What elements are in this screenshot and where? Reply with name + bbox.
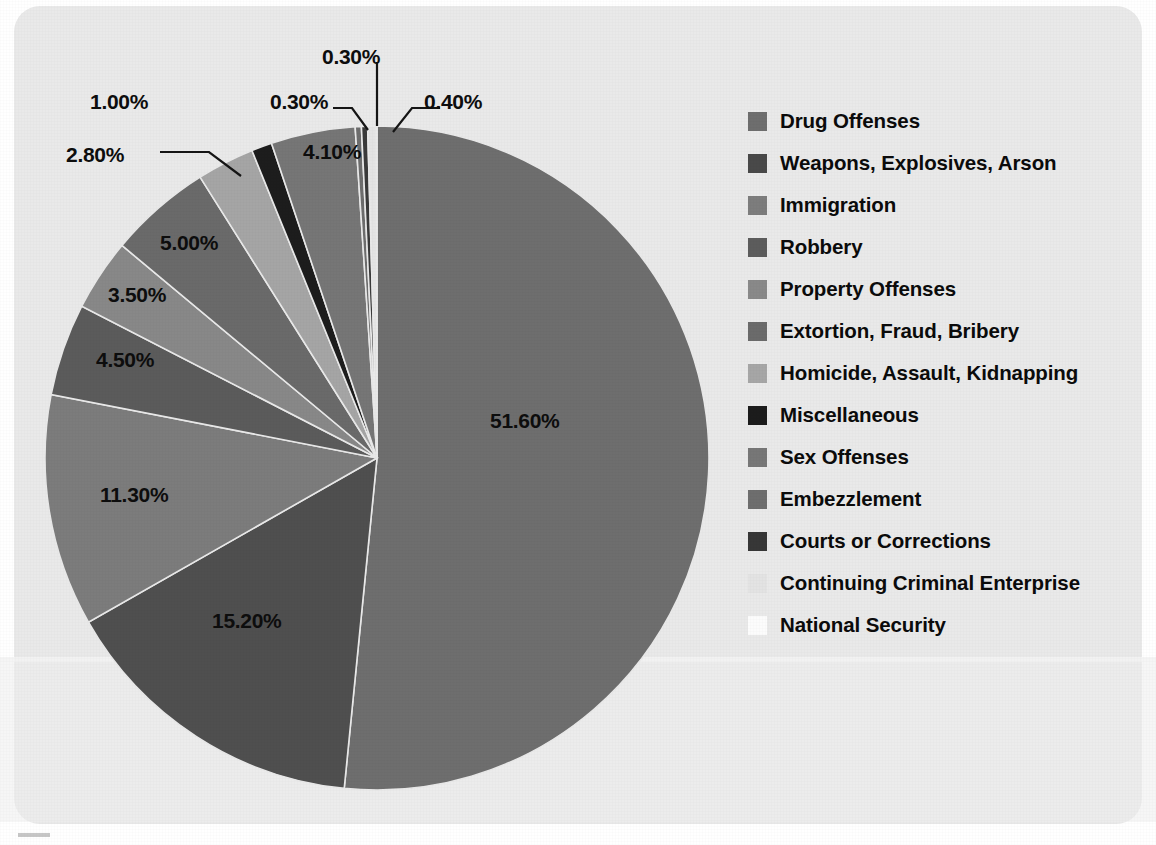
pie-data-label: 1.00%: [90, 90, 148, 114]
pie-data-label: 11.30%: [100, 483, 168, 507]
legend-item-label: Immigration: [780, 193, 896, 217]
legend-swatch-icon: [748, 154, 767, 173]
legend-item-label: Homicide, Assault, Kidnapping: [780, 361, 1078, 385]
legend-swatch-icon: [748, 322, 767, 341]
legend-swatch-icon: [748, 448, 767, 467]
legend-item-label: Extortion, Fraud, Bribery: [780, 319, 1019, 343]
legend-item-label: Robbery: [780, 235, 862, 259]
pie-data-label: 4.10%: [303, 140, 361, 164]
legend-item[interactable]: Property Offenses: [748, 268, 1144, 310]
legend-item[interactable]: Continuing Criminal Enterprise: [748, 562, 1144, 604]
legend-swatch-icon: [748, 196, 767, 215]
legend-item[interactable]: Weapons, Explosives, Arson: [748, 142, 1144, 184]
legend-item-label: Drug Offenses: [780, 109, 920, 133]
pie-data-label: 51.60%: [490, 409, 559, 433]
pie-data-label: 0.30%: [270, 90, 328, 114]
legend-item-label: Property Offenses: [780, 277, 956, 301]
legend-item[interactable]: Extortion, Fraud, Bribery: [748, 310, 1144, 352]
legend-swatch-icon: [748, 238, 767, 257]
pie-slice[interactable]: [376, 126, 377, 458]
legend-swatch-icon: [748, 616, 767, 635]
chart-legend: Drug OffensesWeapons, Explosives, ArsonI…: [748, 100, 1144, 646]
pie-data-label: 3.50%: [108, 283, 166, 307]
legend-item-label: Embezzlement: [780, 487, 921, 511]
legend-item[interactable]: Embezzlement: [748, 478, 1144, 520]
legend-item-label: Miscellaneous: [780, 403, 919, 427]
pie-slice[interactable]: [344, 126, 709, 790]
legend-swatch-icon: [748, 490, 767, 509]
legend-swatch-icon: [748, 364, 767, 383]
legend-item[interactable]: Drug Offenses: [748, 100, 1144, 142]
legend-item-label: Continuing Criminal Enterprise: [780, 571, 1080, 595]
legend-item[interactable]: Immigration: [748, 184, 1144, 226]
pie-data-label: 2.80%: [66, 143, 124, 167]
legend-item-label: Courts or Corrections: [780, 529, 991, 553]
legend-item[interactable]: National Security: [748, 604, 1144, 646]
pie-data-label: 0.40%: [424, 90, 482, 114]
legend-swatch-icon: [748, 532, 767, 551]
chart-page: 0.30%1.00%0.30%0.40%2.80%4.10%5.00%3.50%…: [0, 0, 1156, 845]
legend-swatch-icon: [748, 406, 767, 425]
legend-item[interactable]: Courts or Corrections: [748, 520, 1144, 562]
legend-item[interactable]: Homicide, Assault, Kidnapping: [748, 352, 1144, 394]
legend-item[interactable]: Sex Offenses: [748, 436, 1144, 478]
pie-data-label: 0.30%: [322, 45, 380, 69]
pie-data-label: 4.50%: [96, 348, 154, 372]
pie-slice-group: [45, 126, 709, 790]
pie-data-label: 15.20%: [212, 609, 281, 633]
legend-item[interactable]: Robbery: [748, 226, 1144, 268]
legend-swatch-icon: [748, 280, 767, 299]
legend-swatch-icon: [748, 574, 767, 593]
legend-swatch-icon: [748, 112, 767, 131]
legend-item[interactable]: Miscellaneous: [748, 394, 1144, 436]
legend-item-label: Sex Offenses: [780, 445, 909, 469]
legend-item-label: National Security: [780, 613, 946, 637]
pie-data-label: 5.00%: [160, 231, 218, 255]
legend-item-label: Weapons, Explosives, Arson: [780, 151, 1057, 175]
